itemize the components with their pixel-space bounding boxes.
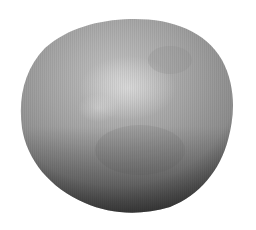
- image-canvas: Grey, slightly irregular spherical objec…: [0, 0, 256, 230]
- sphere-image: [0, 0, 256, 230]
